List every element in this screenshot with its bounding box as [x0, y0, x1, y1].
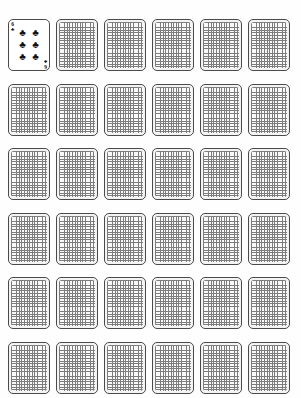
- card-back-pattern: [155, 216, 191, 262]
- card-back-pattern: [155, 280, 191, 326]
- card-back-pattern: [59, 87, 95, 133]
- card-back-pattern: [155, 87, 191, 133]
- card-back[interactable]: [248, 19, 290, 71]
- card-back-pattern: [59, 345, 95, 391]
- clubs-icon: ♣: [32, 28, 39, 38]
- card-back[interactable]: [152, 19, 194, 71]
- card-back[interactable]: [8, 213, 50, 265]
- card-back-pattern: [251, 280, 287, 326]
- card-back[interactable]: [152, 277, 194, 329]
- card-back-pattern: [251, 216, 287, 262]
- card-back-pattern: [11, 216, 47, 262]
- card-back[interactable]: [56, 277, 98, 329]
- card-grid-board: 6♣6♣♣♣♣♣♣♣: [0, 0, 301, 398]
- card-back-pattern: [155, 345, 191, 391]
- card-back-pattern: [107, 87, 143, 133]
- card-back[interactable]: [104, 84, 146, 136]
- card-back[interactable]: [152, 84, 194, 136]
- card-six-of-clubs[interactable]: 6♣6♣♣♣♣♣♣♣: [8, 19, 50, 71]
- card-back[interactable]: [248, 342, 290, 394]
- card-back[interactable]: [248, 213, 290, 265]
- card-back[interactable]: [200, 277, 242, 329]
- card-back[interactable]: [8, 84, 50, 136]
- card-back-pattern: [107, 345, 143, 391]
- card-back-pattern: [155, 151, 191, 197]
- card-back[interactable]: [104, 19, 146, 71]
- card-back[interactable]: [200, 84, 242, 136]
- card-back-pattern: [203, 216, 239, 262]
- card-back[interactable]: [200, 213, 242, 265]
- card-back[interactable]: [8, 277, 50, 329]
- card-back[interactable]: [248, 148, 290, 200]
- card-back[interactable]: [104, 342, 146, 394]
- card-corner-index-tl: 6♣: [11, 22, 14, 32]
- clubs-icon: ♣: [32, 40, 39, 50]
- card-back-pattern: [203, 87, 239, 133]
- card-back[interactable]: [104, 213, 146, 265]
- clubs-icon: ♣: [19, 52, 26, 62]
- card-back-pattern: [203, 280, 239, 326]
- card-back-pattern: [203, 345, 239, 391]
- clubs-icon: ♣: [44, 59, 47, 64]
- card-back-pattern: [59, 22, 95, 68]
- card-back[interactable]: [56, 342, 98, 394]
- card-back-pattern: [155, 22, 191, 68]
- card-back[interactable]: [56, 148, 98, 200]
- card-back-pattern: [203, 22, 239, 68]
- card-back[interactable]: [152, 148, 194, 200]
- card-face: 6♣6♣♣♣♣♣♣♣: [9, 20, 49, 70]
- card-back[interactable]: [56, 19, 98, 71]
- clubs-icon: ♣: [19, 40, 26, 50]
- card-back-pattern: [107, 280, 143, 326]
- card-back-pattern: [251, 22, 287, 68]
- clubs-icon: ♣: [11, 27, 14, 32]
- card-back-pattern: [59, 216, 95, 262]
- card-back-pattern: [59, 280, 95, 326]
- card-back[interactable]: [200, 19, 242, 71]
- card-back[interactable]: [152, 342, 194, 394]
- card-back-pattern: [11, 280, 47, 326]
- clubs-icon: ♣: [32, 52, 39, 62]
- card-back[interactable]: [200, 342, 242, 394]
- card-back-pattern: [59, 151, 95, 197]
- card-back[interactable]: [8, 342, 50, 394]
- card-back-pattern: [11, 151, 47, 197]
- card-back-pattern: [251, 151, 287, 197]
- clubs-icon: ♣: [19, 28, 26, 38]
- card-back-pattern: [251, 87, 287, 133]
- card-back-pattern: [107, 216, 143, 262]
- card-back-pattern: [203, 151, 239, 197]
- card-back[interactable]: [200, 148, 242, 200]
- card-back-pattern: [11, 345, 47, 391]
- card-back[interactable]: [104, 148, 146, 200]
- card-back[interactable]: [56, 84, 98, 136]
- card-corner-index-br: 6♣: [44, 59, 47, 69]
- card-pip-area: ♣♣♣♣♣♣: [16, 27, 42, 63]
- card-back-pattern: [251, 345, 287, 391]
- card-back[interactable]: [56, 213, 98, 265]
- card-back-pattern: [107, 22, 143, 68]
- card-back[interactable]: [248, 277, 290, 329]
- card-back-pattern: [11, 87, 47, 133]
- card-back[interactable]: [8, 148, 50, 200]
- card-back[interactable]: [152, 213, 194, 265]
- card-back[interactable]: [248, 84, 290, 136]
- card-back-pattern: [107, 151, 143, 197]
- card-back[interactable]: [104, 277, 146, 329]
